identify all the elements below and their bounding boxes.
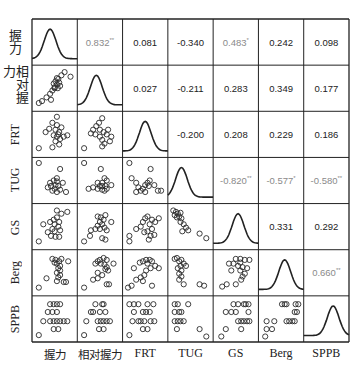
correlation-value: -0.340	[177, 37, 204, 48]
row-label: TUG	[0, 157, 30, 203]
significance-stars: **	[247, 175, 252, 181]
correlation-cell: -0.340	[177, 37, 204, 48]
correlation-value: 0.027	[133, 83, 157, 94]
column-label: SPPB	[304, 346, 349, 364]
correlation-cell: 0.242	[269, 37, 293, 48]
column-label: GS	[213, 346, 258, 364]
correlation-value: 0.229	[269, 129, 293, 140]
row-label: 相对握力	[0, 65, 30, 111]
correlation-value: 0.349	[269, 83, 293, 94]
correlation-value: 0.331	[269, 221, 293, 232]
row-label: FRT	[0, 111, 30, 157]
correlation-value: -0.577*	[266, 175, 296, 186]
correlation-cell: 0.186	[314, 129, 338, 140]
correlation-cell: 0.098	[314, 37, 338, 48]
significance-stars: **	[337, 175, 342, 181]
correlation-value: 0.483*	[223, 37, 250, 48]
column-label: 握力	[32, 346, 77, 364]
correlation-cell: 0.483*	[223, 37, 250, 48]
column-label: FRT	[123, 346, 168, 364]
correlation-cell: 0.229	[269, 129, 293, 140]
scatter-matrix-figure: 0.832**0.081-0.3400.483*0.2420.0980.027-…	[0, 0, 362, 374]
correlation-value: 0.208	[224, 129, 248, 140]
column-label: TUG	[168, 346, 213, 364]
correlation-cell: 0.177	[314, 83, 338, 94]
correlation-value: 0.283	[224, 83, 248, 94]
correlation-cell: 0.208	[224, 129, 248, 140]
correlation-value: 0.177	[314, 83, 338, 94]
row-label: SPPB	[0, 296, 30, 342]
correlation-value: 0.186	[314, 129, 338, 140]
correlation-value: -0.200	[177, 129, 204, 140]
correlation-value: -0.211	[177, 83, 203, 94]
correlation-cell: -0.577*	[266, 175, 296, 186]
correlation-value: 0.242	[269, 37, 293, 48]
correlation-cell: 0.027	[133, 83, 157, 94]
correlation-cell: 0.283	[224, 83, 248, 94]
correlation-value: 0.098	[314, 37, 338, 48]
row-label: 握力	[0, 19, 30, 65]
correlation-cell: 0.292	[314, 221, 338, 232]
correlation-cell: 0.081	[133, 37, 157, 48]
correlation-cell: 0.349	[269, 83, 293, 94]
correlation-cell: -0.211	[177, 83, 203, 94]
correlation-cell: -0.200	[177, 129, 204, 140]
significance-stars: **	[336, 267, 341, 273]
column-label: Berg	[258, 346, 303, 364]
correlation-value: 0.081	[133, 37, 157, 48]
correlation-cell: 0.331	[269, 221, 293, 232]
row-label: Berg	[0, 250, 30, 296]
correlation-value: 0.292	[314, 221, 338, 232]
column-label: 相对握力	[77, 346, 122, 364]
significance-stars: **	[109, 37, 114, 43]
scatter-matrix-plot: 0.832**0.081-0.3400.483*0.2420.0980.027-…	[0, 0, 362, 374]
row-label: GS	[0, 204, 30, 250]
